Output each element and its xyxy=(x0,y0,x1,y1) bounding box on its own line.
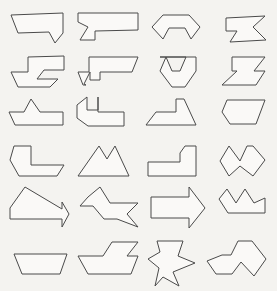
shape-grid-canvas xyxy=(0,0,277,291)
shape-trapezoid-boat xyxy=(14,254,67,274)
shape-grid-page: Polygon Shape Grid xyxy=(0,0,277,291)
